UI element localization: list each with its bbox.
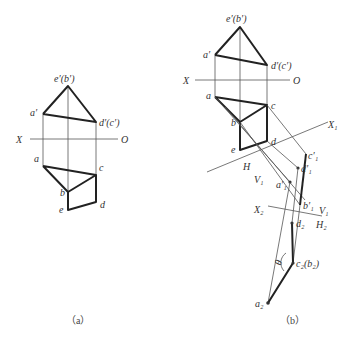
- label-b: b: [60, 187, 65, 198]
- front-view-triangle: [215, 27, 267, 65]
- label-e-prime-b-prime: e′(b′): [226, 13, 247, 25]
- label-o: O: [121, 134, 128, 145]
- label-d2: d₂: [296, 218, 305, 229]
- label-a1-prime: a′₁: [276, 179, 287, 190]
- label-c1-prime: c′₁: [308, 150, 318, 161]
- label-d-prime-c-prime: d′(c′): [99, 117, 120, 129]
- label-v1: V₁: [254, 174, 264, 185]
- axis-x2: [268, 206, 322, 216]
- label-e: e: [59, 204, 64, 215]
- label-h: H: [242, 161, 251, 172]
- label-c2-b2: c₂(b₂): [296, 258, 320, 270]
- label-b: b: [231, 117, 236, 128]
- label-x2: X₂: [253, 204, 264, 215]
- label-d: d: [271, 136, 277, 147]
- label-a-prime: a′: [30, 107, 38, 118]
- label-theta: θ: [272, 259, 284, 267]
- label-x: X: [15, 134, 23, 145]
- label-x: X: [182, 75, 190, 86]
- projector-b1-c2: [293, 205, 300, 263]
- label-a: a: [206, 90, 211, 101]
- figure-a: e′(b′) a′ d′(c′) X O a c b d e （a）: [15, 73, 128, 326]
- figure-b: e′(b′) a′ d′(c′) X O a c b d e X₁ H V₁ c…: [182, 13, 338, 326]
- projector-aux: [225, 107, 305, 200]
- top-view-triangle: [215, 97, 267, 122]
- label-x1: X₁: [327, 119, 338, 130]
- top-view-quad: [68, 175, 96, 210]
- label-d1-prime: d′₁: [301, 163, 312, 174]
- label-c: c: [271, 100, 276, 111]
- caption-a: （a）: [66, 315, 90, 326]
- label-a-prime: a′: [203, 49, 211, 60]
- label-e: e: [231, 144, 236, 155]
- caption-b: （b）: [280, 315, 305, 326]
- label-c: c: [99, 162, 104, 173]
- point-d2: [290, 221, 293, 224]
- label-a2: a₂: [255, 298, 264, 309]
- label-a: a: [34, 153, 39, 164]
- label-o: O: [293, 75, 300, 86]
- projection-diagram: e′(b′) a′ d′(c′) X O a c b d e （a）: [0, 0, 349, 337]
- label-b1-prime: b′₁: [303, 200, 314, 211]
- label-v1-b: V₁: [319, 205, 329, 216]
- point-c2: [291, 261, 294, 264]
- label-d-prime-c-prime: d′(c′): [271, 60, 292, 72]
- label-h2: H₂: [315, 219, 327, 230]
- label-d: d: [100, 199, 106, 210]
- point-a2: [266, 301, 270, 305]
- front-view-triangle: [43, 86, 96, 122]
- label-e-prime-b-prime: e′(b′): [54, 73, 75, 85]
- top-view-triangle: [43, 166, 96, 192]
